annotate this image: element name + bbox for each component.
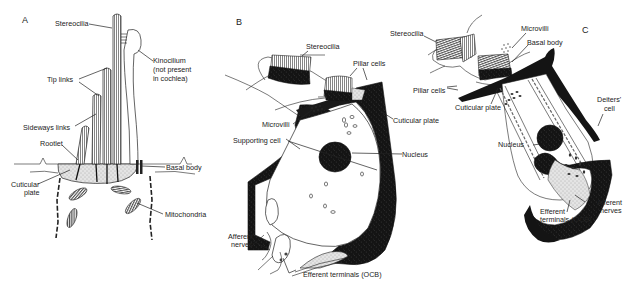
label-nucleus-c: Nucleus xyxy=(498,140,524,149)
basal-body-shape xyxy=(136,160,143,174)
kinocilium-shape xyxy=(124,29,141,164)
label-basal-body-a: Basal body xyxy=(166,163,202,172)
label-tip-links: Tip links xyxy=(47,75,73,84)
label-efferent-terminals-b: Efferent terminals (OCB) xyxy=(303,270,382,279)
nucleus-shape xyxy=(319,142,351,172)
label-afferent-nerves-b-2: nerves xyxy=(231,240,253,249)
stereocilia-bundle-1 xyxy=(268,55,311,84)
cell-junctions xyxy=(56,176,152,240)
panel-c-label: C xyxy=(582,25,589,35)
label-pillar-cells-b: Pillar cells xyxy=(353,59,386,68)
label-supporting-cell: Supporting cell xyxy=(233,136,281,145)
hair-cell-figure: A xyxy=(0,0,630,286)
label-basal-body-c: Basal body xyxy=(527,38,563,47)
panel-b: B xyxy=(225,17,439,279)
label-microvilli-c: Microvilli xyxy=(521,24,549,33)
label-microvilli-b: Microvilli xyxy=(262,120,290,129)
panel-c: C xyxy=(390,15,622,243)
label-kinocilium-note-1: (not present xyxy=(153,65,191,74)
nucleus-shape-c xyxy=(537,125,563,151)
panel-a: A xyxy=(11,14,206,240)
label-efferent-terminals-c-2: terminals (OCB) xyxy=(540,215,592,224)
panel-a-label: A xyxy=(22,15,28,25)
label-cuticular-plate-c: Cuticular plate xyxy=(455,103,501,112)
label-rootlet: Rootlet xyxy=(40,139,63,148)
label-deiters-cell-1: Deiters' xyxy=(597,95,622,104)
cuticular-plate-shape xyxy=(58,164,138,183)
label-afferent-nerves-c-2: nerves xyxy=(600,206,622,215)
label-pillar-cells-c: Pillar cells xyxy=(413,86,446,95)
stereocilia-bundle-c-2 xyxy=(478,54,512,80)
label-stereocilia-b: Stereocilia xyxy=(306,42,340,51)
mitochondria-shapes xyxy=(65,185,143,229)
membrane-line xyxy=(30,171,58,173)
label-cuticular-plate-b: Cuticular plate xyxy=(393,116,439,125)
label-deiters-cell-2: cell xyxy=(604,104,615,113)
label-stereocilia-a: Stereocilia xyxy=(55,19,89,28)
microvilli-dots-c xyxy=(501,43,510,52)
label-stereocilia-c: Stereocilia xyxy=(390,29,424,38)
label-kinocilium-note-2: in cochlea) xyxy=(153,74,188,83)
panel-a-leaders xyxy=(38,24,165,214)
label-nucleus-b: Nucleus xyxy=(402,150,428,159)
cell-outline-line xyxy=(246,75,270,90)
label-cuticular-plate-a-2: plate xyxy=(24,188,40,197)
cell-outline-line xyxy=(467,15,482,33)
label-kinocilium-a: Kinocilium xyxy=(153,56,186,65)
cell-outline-line xyxy=(430,66,445,73)
stereocilia-bundle-c-1 xyxy=(436,34,476,62)
panel-b-label: B xyxy=(236,17,242,27)
stereocilium-tall xyxy=(113,14,121,182)
label-mitochondria: Mitochondria xyxy=(165,210,206,219)
label-sideways-links: Sideways links xyxy=(23,123,71,132)
